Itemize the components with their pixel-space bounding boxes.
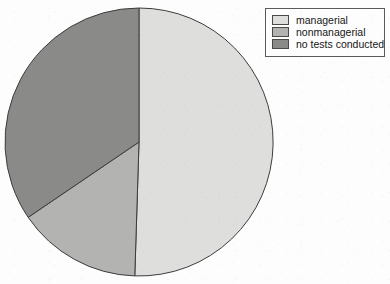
chart-canvas: managerial nonmanagerial no tests conduc… [0, 0, 390, 284]
pie-slices [5, 8, 273, 276]
legend-swatch-nonmanagerial [273, 28, 289, 37]
legend-swatch-managerial [273, 16, 289, 25]
legend-label-no-tests-conducted: no tests conducted [296, 38, 384, 50]
legend-label-nonmanagerial: nonmanagerial [296, 26, 365, 38]
legend-swatch-no-tests-conducted [273, 40, 289, 49]
pie-chart-figure: managerial nonmanagerial no tests conduc… [0, 0, 390, 284]
legend-label-managerial: managerial [296, 14, 348, 26]
chart-legend: managerial nonmanagerial no tests conduc… [266, 9, 385, 57]
